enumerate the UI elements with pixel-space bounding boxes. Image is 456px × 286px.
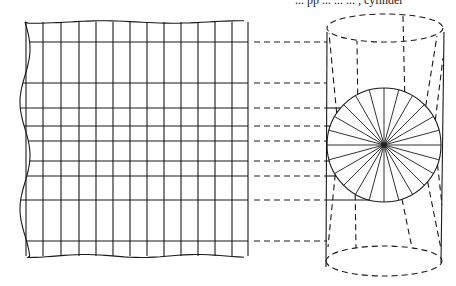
circle-spoke xyxy=(384,145,439,160)
perspective-ray-bottom xyxy=(428,182,441,249)
circle-spoke xyxy=(329,130,384,145)
perspective-ray-top xyxy=(357,41,358,94)
cylinder-bottom-ellipse-front xyxy=(326,261,442,276)
circle-spoke xyxy=(369,145,384,200)
circle-spoke xyxy=(329,145,384,160)
perspective-ray-top xyxy=(435,58,443,120)
circle-spoke xyxy=(384,145,399,200)
cylinder xyxy=(326,14,444,276)
perspective-ray-bottom xyxy=(438,165,443,206)
circle-spoke xyxy=(384,130,439,145)
circle-spoke xyxy=(369,90,384,145)
perspective-ray-top xyxy=(426,36,437,106)
perspective-ray-top xyxy=(403,16,405,92)
perspective-ray-bottom xyxy=(355,194,356,248)
grid-bottom-edge xyxy=(28,255,244,258)
grid-wavy-left-edge xyxy=(20,22,30,256)
perspective-ray-bottom xyxy=(402,199,412,248)
perspective-ray-top xyxy=(329,33,337,113)
grid-top-edge xyxy=(25,21,244,23)
circle-spoke xyxy=(384,90,399,145)
flat-grid xyxy=(20,21,248,258)
cylinder-bottom-ellipse-back xyxy=(326,246,442,261)
perspective-ray-bottom xyxy=(328,174,335,247)
grid-to-cylinder-diagram xyxy=(0,0,456,286)
dashed-projection-lines xyxy=(254,42,327,241)
cylinder-top-ellipse xyxy=(327,14,443,42)
